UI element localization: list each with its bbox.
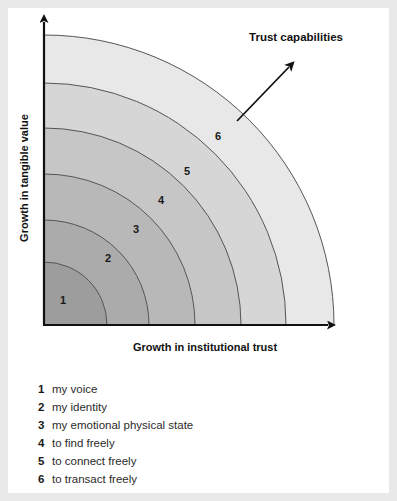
band-label-2: 2 <box>105 252 111 264</box>
figure-canvas: 1 2 3 4 5 6 Trust capabilities Growth in… <box>8 8 389 493</box>
legend-key: 3 <box>38 416 49 434</box>
legend-item: 6 to transact freely <box>38 470 368 488</box>
legend-item: 3 my emotional physical state <box>38 416 368 434</box>
legend-label: my emotional physical state <box>49 416 193 434</box>
legend-item: 5 to connect freely <box>38 452 368 470</box>
legend-key: 6 <box>38 470 49 488</box>
legend-key: 5 <box>38 452 49 470</box>
legend-key: 2 <box>38 398 49 416</box>
y-axis-label: Growth in tangible value <box>18 114 30 242</box>
legend: 1 my voice 2 my identity 3 my emotional … <box>38 380 368 488</box>
legend-label: my voice <box>49 380 97 398</box>
trust-capabilities-arrow-icon <box>237 67 289 121</box>
band-group <box>44 35 334 325</box>
legend-label: to find freely <box>49 434 115 452</box>
figure-frame: 1 2 3 4 5 6 Trust capabilities Growth in… <box>0 0 397 501</box>
legend-label: my identity <box>49 398 107 416</box>
legend-key: 1 <box>38 380 49 398</box>
legend-item: 4 to find freely <box>38 434 368 452</box>
x-axis-label: Growth in institutional trust <box>133 341 278 353</box>
legend-key: 4 <box>38 434 49 452</box>
band-label-6: 6 <box>215 130 221 142</box>
legend-label: to connect freely <box>49 452 136 470</box>
band-label-1: 1 <box>60 294 66 306</box>
band-label-4: 4 <box>158 194 165 206</box>
legend-item: 2 my identity <box>38 398 368 416</box>
legend-label: to transact freely <box>49 470 137 488</box>
band-label-5: 5 <box>184 165 190 177</box>
band-label-3: 3 <box>133 223 139 235</box>
legend-item: 1 my voice <box>38 380 368 398</box>
trust-capabilities-label: Trust capabilities <box>249 31 343 43</box>
